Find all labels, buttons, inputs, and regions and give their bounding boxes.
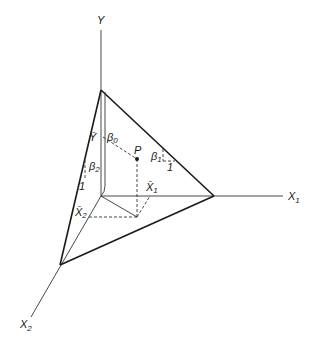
beta1-unit-label: 1 xyxy=(167,161,173,173)
beta2-unit-label: 1 xyxy=(79,180,85,192)
point-p-label: P xyxy=(134,144,142,156)
x1bar-label: X̄1 xyxy=(145,181,158,195)
beta2-label: β2 xyxy=(88,160,100,174)
foot-to-x1bar-dashed xyxy=(137,196,150,217)
y-axis-label: Y xyxy=(97,14,105,26)
point-p xyxy=(135,157,139,161)
beta1-label: β1 xyxy=(150,150,162,164)
beta0-bracket xyxy=(101,92,105,196)
x2-axis-label: X2 xyxy=(19,318,32,333)
regression-plane-diagram: Y X1 X2 P Ȳ β0 β1 1 β2 1 X̄1 X̄2 xyxy=(0,0,313,350)
ybar-label: Ȳ xyxy=(89,131,97,143)
origin-to-foot-line xyxy=(101,196,137,217)
beta0-label: β0 xyxy=(106,131,118,145)
plane-edge-y-x1 xyxy=(101,90,214,196)
x2bar-label: X̄2 xyxy=(74,206,87,220)
x2-axis xyxy=(31,196,101,317)
plane-edge-y-x2 xyxy=(60,90,101,265)
x1-axis-label: X1 xyxy=(287,190,300,205)
